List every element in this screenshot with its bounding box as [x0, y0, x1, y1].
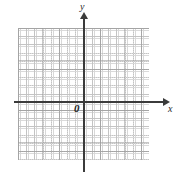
- y-axis-arrow-icon: [80, 12, 88, 19]
- y-axis-label: y: [80, 2, 84, 12]
- origin-label: 0: [74, 103, 80, 114]
- y-axis-line: [83, 18, 85, 172]
- coordinate-plane-figure: y x 0: [0, 0, 177, 181]
- x-axis-line: [14, 101, 164, 103]
- x-axis-label: x: [168, 104, 172, 114]
